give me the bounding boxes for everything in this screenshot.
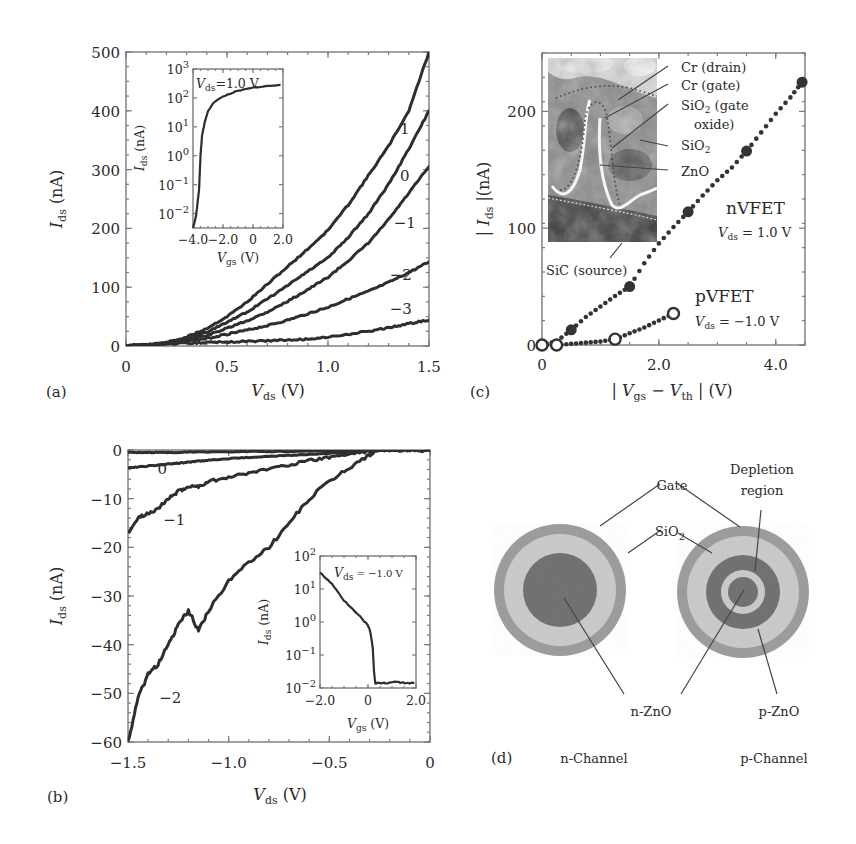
tick-label: 0 xyxy=(121,358,131,376)
tick-label: 1.5 xyxy=(417,358,441,376)
data-point xyxy=(608,297,613,302)
tick-label: −10 xyxy=(90,491,122,509)
data-point xyxy=(730,165,735,170)
tick-label: 300 xyxy=(91,162,120,180)
data-point xyxy=(652,248,657,253)
tick-label: −40 xyxy=(90,637,122,655)
sem-cross-section-image xyxy=(548,55,657,242)
curve-label: 0 xyxy=(400,167,410,185)
tick-label: 102 xyxy=(294,546,316,564)
panel-b-y-tick-labels: 0−10−20−30−40−50−60 xyxy=(90,442,122,752)
data-point xyxy=(627,331,632,336)
tick-label: 0 xyxy=(112,442,122,460)
tick-label: −30 xyxy=(90,588,122,606)
data-point-nvfet xyxy=(624,281,635,292)
data-point xyxy=(642,261,647,266)
tick-label: −2.0 xyxy=(305,693,335,708)
tick-label: 10−1 xyxy=(158,175,189,193)
data-point xyxy=(593,308,598,313)
curve-label: −2 xyxy=(159,689,181,707)
tick-label: 0 xyxy=(364,693,372,708)
tick-label: 102 xyxy=(167,88,189,106)
data-point xyxy=(773,111,778,116)
tick-label: 0 xyxy=(526,337,536,355)
tick-label: 103 xyxy=(167,59,189,77)
tick-label: 0 xyxy=(110,338,120,356)
data-point xyxy=(657,241,662,246)
data-point xyxy=(613,294,618,299)
inset-b-x-axis-label: Vgs (V) xyxy=(347,716,389,733)
panel-c-y-axis-label: | Ids |(nA) xyxy=(474,162,496,236)
curve-label: −1 xyxy=(163,511,185,529)
tick-label: 200 xyxy=(91,220,120,238)
label-cr-drain: Cr (drain) xyxy=(681,60,746,75)
data-point xyxy=(720,174,725,179)
data-point xyxy=(657,318,662,323)
tick-label: 0 xyxy=(537,356,547,374)
inset-a-y-axis-label: Ids (nA) xyxy=(132,125,149,172)
n-channel-cross-section xyxy=(494,524,626,656)
tick-label: 100 xyxy=(294,612,316,630)
label-sic-source: SiC (source) xyxy=(546,263,627,278)
curve-label: −2 xyxy=(390,266,412,284)
tick-label: 100 xyxy=(167,146,189,164)
data-point xyxy=(632,277,637,282)
panel-c-label: (c) xyxy=(470,383,490,401)
nvfet-condition: Vds = 1.0 V xyxy=(718,225,792,242)
data-point-nvfet xyxy=(797,77,808,88)
tick-label: −1.0 xyxy=(210,754,246,772)
tick-label: 2.0 xyxy=(406,693,426,708)
data-point-pvfet xyxy=(668,308,679,319)
panel-b-p-channel-output: 0−10−20−30−40−50−60 −1.5−1.0−0.50 0−1−2 … xyxy=(47,442,435,807)
panel-a-label: (a) xyxy=(46,383,67,401)
tick-label: 4.0 xyxy=(764,356,788,374)
data-point xyxy=(652,321,657,326)
data-point xyxy=(792,90,797,95)
data-point xyxy=(725,169,730,174)
data-point xyxy=(705,188,710,193)
data-point xyxy=(647,323,652,328)
data-point xyxy=(671,225,676,230)
data-point-pvfet xyxy=(610,334,621,345)
data-point xyxy=(622,333,627,338)
data-point xyxy=(666,230,671,235)
data-point xyxy=(593,340,598,345)
curve-label: −3 xyxy=(390,300,412,318)
data-point xyxy=(584,340,589,345)
panel-a-y-axis-label: Ids (nA) xyxy=(47,170,69,229)
label-cr-gate: Cr (gate) xyxy=(681,78,740,93)
data-point xyxy=(754,136,759,141)
tick-label: 0.5 xyxy=(215,358,239,376)
pvfet-condition: Vds = −1.0 V xyxy=(695,314,780,331)
panel-d-cross-section-diagram: Gate SiO2 Depletion region n-ZnO p-ZnO (… xyxy=(491,462,809,767)
tick-label: −60 xyxy=(90,734,122,752)
label-sio2: SiO2 xyxy=(681,138,710,155)
data-point xyxy=(759,130,764,135)
data-point xyxy=(764,124,769,129)
label-depletion-region-2: region xyxy=(741,483,784,498)
label-depletion-region-1: Depletion xyxy=(730,462,794,477)
data-point xyxy=(676,220,681,225)
tick-label: 0 xyxy=(249,232,257,247)
data-point-nvfet xyxy=(566,324,577,335)
data-point xyxy=(637,327,642,332)
inset-b-y-tick-labels: 10−210−1100101102 xyxy=(285,546,316,696)
curve-label: −1 xyxy=(394,214,416,232)
panel-a-inset-transfer-curve: 10−210−1100101102103 −4.0−2.002.0 Vds=1.… xyxy=(132,59,293,267)
tick-label: 2.0 xyxy=(273,232,293,247)
data-point xyxy=(769,118,774,123)
panel-a-y-tick-labels: 0100200300400500 xyxy=(91,44,120,356)
label-sio2-gate-oxide: SiO2 (gate xyxy=(681,98,749,115)
data-point xyxy=(710,183,715,188)
data-point xyxy=(788,95,793,100)
panel-b-y-axis-label: Ids (nA) xyxy=(47,567,69,626)
panel-c-x-axis-label: | Vgs − Vth | (V) xyxy=(612,381,733,403)
data-point xyxy=(632,329,637,334)
data-point xyxy=(579,341,584,346)
label-n-channel: n-Channel xyxy=(560,751,627,766)
panel-c-scaling-plot: 0100200 02.04.0 Cr xyxy=(470,53,808,403)
panel-b-x-axis-label: Vds (V) xyxy=(253,785,306,807)
tick-label: −2.0 xyxy=(208,232,238,247)
data-point xyxy=(584,315,589,320)
panel-a-output-characteristics: 0100200300400500 00.51.01.5 10−1−2−3 Ids… xyxy=(46,44,441,403)
